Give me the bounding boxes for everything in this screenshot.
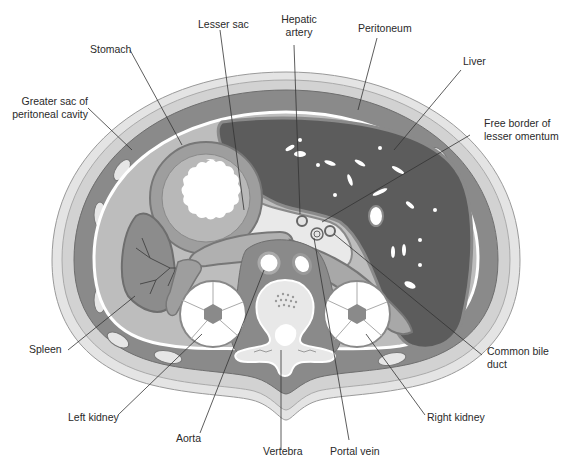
label-peritoneum: Peritoneum — [358, 22, 412, 35]
label-left-kidney: Left kidney — [68, 411, 119, 424]
label-right-kidney: Right kidney — [427, 411, 485, 424]
label-greater-sac: Greater sac ofperitoneal cavity — [10, 95, 88, 120]
label-portal-vein: Portal vein — [330, 445, 380, 458]
portal-vein-vessel — [311, 228, 323, 240]
common-bile-duct-vessel — [325, 226, 335, 236]
label-common-bile-duct: Common bileduct — [487, 345, 549, 370]
label-stomach: Stomach — [90, 43, 131, 56]
label-lesser-sac: Lesser sac — [198, 18, 249, 31]
diagram-illustration — [0, 0, 572, 467]
label-aorta: Aorta — [176, 432, 201, 445]
abdominal-cross-section-diagram: Stomach Lesser sac Hepaticartery Periton… — [0, 0, 572, 467]
label-liver: Liver — [463, 55, 486, 68]
left-kidney — [180, 281, 246, 347]
label-vertebra: Vertebra — [263, 445, 303, 458]
hepatic-artery — [297, 216, 307, 226]
label-free-border-lesser-omentum: Free border oflesser omentum — [484, 117, 559, 142]
right-kidney — [324, 281, 390, 347]
label-hepatic-artery: Hepaticartery — [273, 13, 325, 38]
aorta-vessel — [259, 253, 279, 273]
label-spleen: Spleen — [29, 343, 62, 356]
